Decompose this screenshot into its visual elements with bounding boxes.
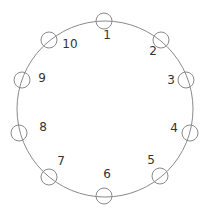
ring-node-4: 4 [170,121,198,141]
node-label: 3 [167,73,175,87]
node-label: 9 [38,71,46,85]
node-label: 6 [103,167,111,181]
node-label: 2 [149,44,157,58]
node-label: 8 [39,120,47,134]
ring-diagram: 12345678910 [0,0,207,213]
ring-node-6: 6 [96,167,112,204]
node-circle [152,168,168,184]
node-label: 10 [62,37,77,51]
ring-nodes: 12345678910 [11,13,198,204]
node-label: 5 [147,153,155,167]
node-label: 1 [103,28,111,42]
ring-node-1: 1 [96,13,112,42]
node-label: 7 [57,154,65,168]
node-circle [96,188,112,204]
node-circle [41,32,57,48]
ring-node-10: 10 [41,32,78,51]
ring-node-9: 9 [14,71,46,88]
ring-node-8: 8 [11,120,47,141]
node-label: 4 [170,121,178,135]
